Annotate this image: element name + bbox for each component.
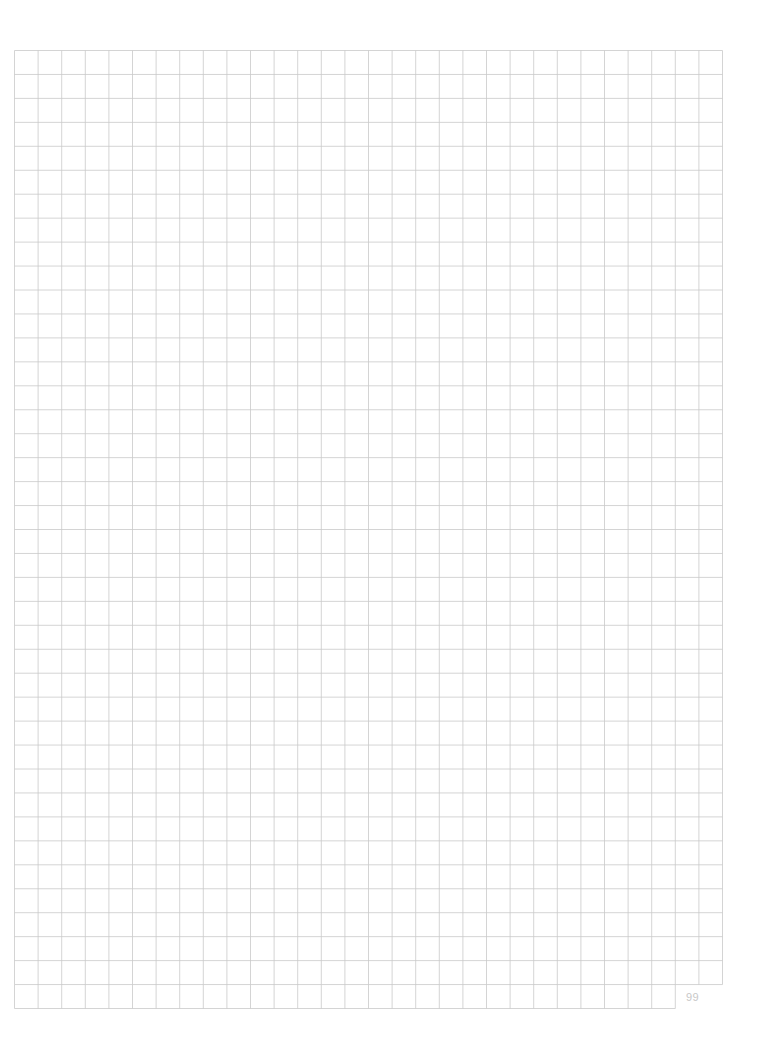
page-number: 99 — [686, 991, 699, 1003]
graph-paper-grid — [0, 0, 757, 1052]
